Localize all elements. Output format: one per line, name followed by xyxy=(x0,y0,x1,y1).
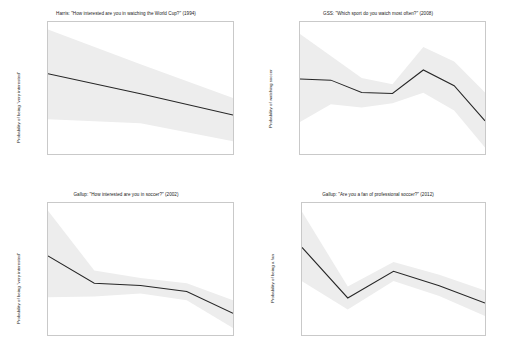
y-tick-mark xyxy=(301,335,302,336)
x-tick-mark xyxy=(302,335,303,336)
y-tick-mark xyxy=(47,49,48,50)
panel-top-left: Harris: "How interested are you in watch… xyxy=(0,0,252,181)
y-axis-label: Probability of being "very interested" xyxy=(16,253,21,324)
x-tick-mark xyxy=(394,335,395,336)
y-axis-label: Probability of being "very interested" xyxy=(16,72,21,143)
x-tick-mark xyxy=(362,154,363,155)
y-tick-mark xyxy=(301,221,302,222)
y-tick-mark xyxy=(47,70,48,71)
x-tick-mark xyxy=(424,154,425,155)
y-tick-mark xyxy=(299,128,300,129)
panel-top-right: GSS: "Which sport do you watch most ofte… xyxy=(252,0,504,181)
multi-panel-figure: Harris: "How interested are you in watch… xyxy=(0,0,505,362)
x-tick-mark xyxy=(94,335,95,336)
x-tick-mark xyxy=(393,154,394,155)
y-tick-mark xyxy=(301,319,302,320)
x-tick-mark xyxy=(141,154,142,155)
y-tick-mark xyxy=(47,245,48,246)
y-tick-mark xyxy=(301,302,302,303)
y-tick-mark xyxy=(47,113,48,114)
y-tick-mark xyxy=(301,204,302,205)
y-tick-mark xyxy=(299,107,300,108)
plot-area: 0.450.400.350.300.250.200.150.100.05Very… xyxy=(301,202,486,336)
chart-svg xyxy=(300,22,485,154)
chart-svg xyxy=(48,203,233,335)
x-tick-mark xyxy=(300,154,301,155)
x-tick-mark xyxy=(456,154,457,155)
y-tick-mark xyxy=(47,91,48,92)
y-tick-mark xyxy=(301,253,302,254)
y-tick-mark xyxy=(47,283,48,284)
y-tick-mark xyxy=(47,207,48,208)
y-tick-mark xyxy=(47,27,48,28)
x-tick-mark xyxy=(348,335,349,336)
panel-title: Gallup: "How interested are you in socce… xyxy=(0,192,252,198)
y-tick-mark xyxy=(299,86,300,87)
panel-title: Gallup: "Are you a fan of professional s… xyxy=(252,192,504,198)
y-tick-mark xyxy=(47,134,48,135)
plot-area: 0.120.100.080.060.040.020Ext LibLibSl Li… xyxy=(299,21,486,155)
x-tick-mark xyxy=(48,154,49,155)
x-tick-mark xyxy=(188,335,189,336)
y-tick-mark xyxy=(301,270,302,271)
y-tick-mark xyxy=(301,286,302,287)
panel-bottom-right: Gallup: "Are you a fan of professional s… xyxy=(252,181,504,362)
y-tick-mark xyxy=(299,43,300,44)
x-tick-mark xyxy=(141,335,142,336)
chart-svg xyxy=(302,203,485,335)
y-axis-label: Probability of watching soccer xyxy=(268,69,273,128)
y-tick-mark xyxy=(47,321,48,322)
confidence-band xyxy=(300,34,485,147)
x-tick-mark xyxy=(440,335,441,336)
y-tick-mark xyxy=(299,64,300,65)
y-axis-label: Probability of being a fan xyxy=(270,254,275,303)
confidence-band xyxy=(48,29,233,141)
plot-area: 0.240.220.200.180.160.140.12LibModCon xyxy=(47,21,234,155)
chart-svg xyxy=(48,22,233,154)
confidence-band xyxy=(302,212,485,316)
panel-bottom-left: Gallup: "How interested are you in socce… xyxy=(0,181,252,362)
x-tick-mark xyxy=(48,335,49,336)
panel-title: Harris: "How interested are you in watch… xyxy=(0,11,252,17)
y-tick-mark xyxy=(301,237,302,238)
x-tick-mark xyxy=(331,154,332,155)
y-tick-mark xyxy=(299,149,300,150)
plot-area: 0.200.150.100.05Very LibSW LibModSW ConV… xyxy=(47,202,234,336)
panel-title: GSS: "Which sport do you watch most ofte… xyxy=(252,11,504,17)
confidence-band xyxy=(48,211,233,328)
y-tick-mark xyxy=(299,22,300,23)
